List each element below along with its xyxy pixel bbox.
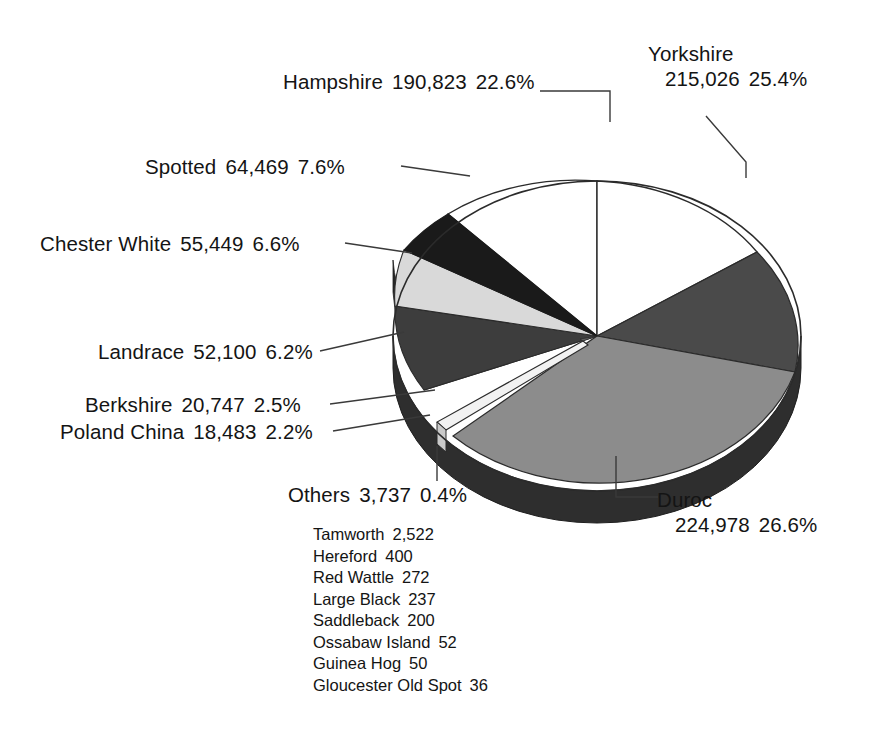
pie-chart-figure: Hampshire190,82322.6% Yorkshire 215,0262… (0, 0, 880, 739)
label-spotted-name: Spotted (145, 155, 216, 178)
label-duroc-name: Duroc (657, 487, 817, 512)
others-list-item: Guinea Hog50 (313, 653, 488, 675)
others-item-value: 237 (408, 590, 436, 608)
leader-hampshire (540, 91, 610, 122)
pie-3d-group (320, 91, 801, 523)
others-item-value: 272 (402, 568, 430, 586)
label-yorkshire-name: Yorkshire (648, 41, 807, 66)
label-berkshire-percent: 2.5% (254, 393, 301, 416)
leader-yorkshire (706, 116, 746, 178)
label-chester-white-percent: 6.6% (253, 232, 300, 255)
label-berkshire-value: 20,747 (182, 393, 245, 416)
others-item-name: Ossabaw Island (313, 633, 430, 651)
others-item-value: 200 (407, 611, 435, 629)
label-duroc-value: 224,978 (675, 513, 750, 536)
label-chester-white-value: 55,449 (180, 232, 243, 255)
others-item-name: Large Black (313, 590, 400, 608)
others-item-name: Hereford (313, 547, 377, 565)
label-yorkshire-value: 215,026 (665, 67, 740, 90)
label-spotted-percent: 7.6% (298, 155, 345, 178)
label-landrace-percent: 6.2% (266, 340, 313, 363)
label-yorkshire: Yorkshire 215,02625.4% (648, 41, 807, 91)
label-others: Others3,7370.4% (288, 483, 467, 507)
label-landrace: Landrace52,1006.2% (98, 340, 313, 364)
label-berkshire: Berkshire20,7472.5% (85, 393, 301, 417)
label-poland-china-value: 18,483 (193, 420, 256, 443)
label-landrace-value: 52,100 (193, 340, 256, 363)
others-item-name: Guinea Hog (313, 654, 401, 672)
label-hampshire-percent: 22.6% (476, 70, 535, 93)
others-list-item: Tamworth2,522 (313, 524, 488, 546)
others-item-value: 50 (409, 654, 427, 672)
label-poland-china: Poland China18,4832.2% (60, 420, 313, 444)
label-others-percent: 0.4% (420, 483, 467, 506)
label-chester-white: Chester White55,4496.6% (40, 232, 300, 256)
others-item-value: 52 (438, 633, 456, 651)
others-item-name: Red Wattle (313, 568, 394, 586)
others-list-item: Hereford400 (313, 546, 488, 568)
label-landrace-name: Landrace (98, 340, 184, 363)
label-hampshire-value: 190,823 (392, 70, 467, 93)
others-item-value: 36 (470, 676, 488, 694)
others-item-value: 2,522 (393, 525, 434, 543)
leader-chester-white (345, 243, 412, 253)
label-spotted: Spotted64,4697.6% (145, 155, 345, 179)
label-hampshire: Hampshire190,82322.6% (283, 70, 534, 94)
others-item-name: Gloucester Old Spot (313, 676, 462, 694)
label-chester-white-name: Chester White (40, 232, 171, 255)
label-duroc-percent: 26.6% (759, 513, 818, 536)
label-poland-china-name: Poland China (60, 420, 184, 443)
others-item-name: Tamworth (313, 525, 385, 543)
leader-berkshire (330, 390, 435, 404)
label-duroc: Duroc 224,97826.6% (657, 487, 817, 537)
leader-landrace (320, 332, 404, 351)
others-list-item: Gloucester Old Spot36 (313, 675, 488, 697)
others-list-item: Large Black237 (313, 589, 488, 611)
label-hampshire-name: Hampshire (283, 70, 383, 93)
others-list-item: Red Wattle272 (313, 567, 488, 589)
label-others-value: 3,737 (359, 483, 411, 506)
label-yorkshire-percent: 25.4% (749, 67, 808, 90)
others-list-item: Saddleback200 (313, 610, 488, 632)
leader-spotted (401, 166, 470, 176)
label-poland-china-percent: 2.2% (266, 420, 313, 443)
others-list-item: Ossabaw Island52 (313, 632, 488, 654)
others-item-name: Saddleback (313, 611, 399, 629)
label-berkshire-name: Berkshire (85, 393, 173, 416)
label-others-name: Others (288, 483, 350, 506)
others-item-value: 400 (385, 547, 413, 565)
others-breakdown-list: Tamworth2,522 Hereford400 Red Wattle272 … (313, 524, 488, 696)
label-spotted-value: 64,469 (225, 155, 288, 178)
